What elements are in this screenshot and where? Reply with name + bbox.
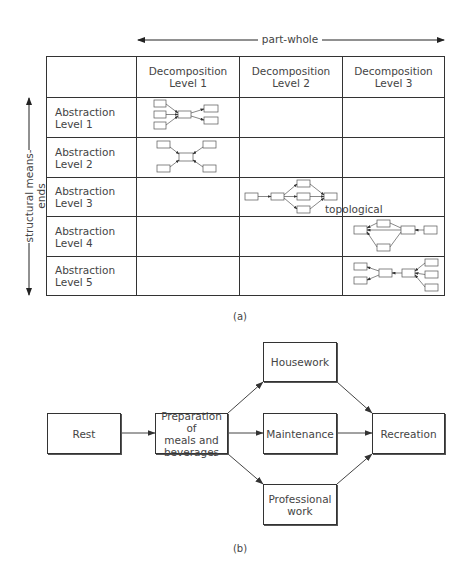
node-label: Maintenance: [266, 428, 334, 440]
node-professional-work: Professional work: [263, 484, 337, 525]
node-label: Housework: [271, 356, 329, 368]
node-label-line3: beverages: [164, 446, 219, 458]
node-label-line2: meals and: [164, 434, 219, 446]
node-label: Recreation: [380, 428, 436, 440]
caption-b: (b): [220, 543, 260, 554]
node-recreation: Recreation: [372, 413, 445, 454]
node-rest: Rest: [47, 413, 121, 454]
node-maintenance: Maintenance: [263, 413, 337, 454]
node-label-line2: work: [287, 505, 312, 517]
figure-b-edges: [0, 0, 468, 569]
edge-professional-recreation: [337, 454, 372, 484]
node-label-line1: Professional: [268, 493, 331, 505]
edge-prep-housework: [228, 382, 263, 413]
node-housework: Housework: [263, 342, 337, 382]
edge-housework-recreation: [337, 382, 372, 413]
node-label-line1: Preparation of: [156, 410, 227, 434]
node-label: Rest: [73, 428, 96, 440]
node-preparation-of-meals: Preparation of meals and beverages: [155, 413, 228, 454]
edge-prep-professional: [228, 454, 263, 484]
